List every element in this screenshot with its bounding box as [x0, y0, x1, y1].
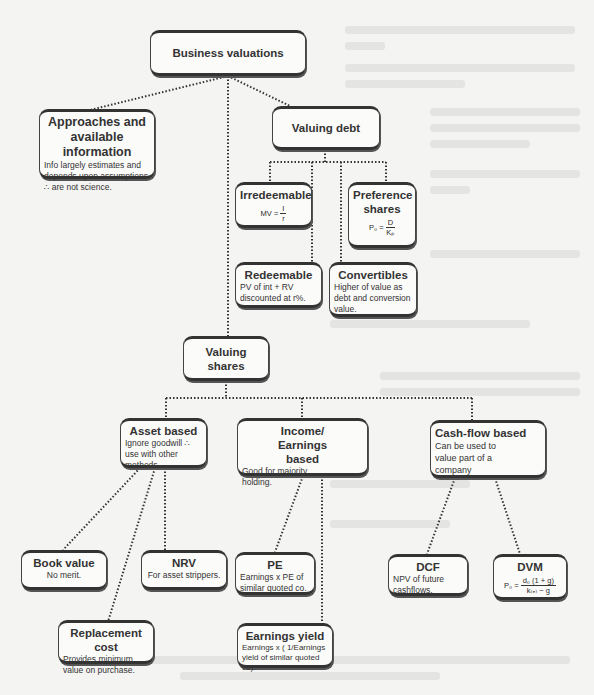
node-cashflow-based: Cash-flow based Can be used to value par… — [430, 420, 546, 478]
node-dcf: DCF NPV of future cashflows. — [388, 554, 468, 596]
node-title: Cash-flow based — [435, 426, 541, 440]
node-asset-based: Asset based Ignore goodwill ∴ use with o… — [120, 418, 207, 468]
node-nrv: NRV For asset strippers. — [141, 550, 227, 590]
node-title: PE — [240, 558, 310, 572]
node-description: No merit. — [26, 570, 102, 581]
node-income-based: Income/ Earnings based Good for majority… — [237, 418, 368, 476]
node-valuing-debt: Valuing debt — [272, 106, 380, 150]
node-convertibles: Convertibles Higher of value as debt and… — [329, 262, 417, 317]
node-description: Ignore goodwill ∴ use with other methods… — [125, 438, 202, 471]
node-preference-shares: Preference shares P₀ = D Kₚ — [348, 182, 416, 248]
node-title: Asset based — [125, 424, 202, 438]
node-description: Earnings x ( 1/Earnings yield of similar… — [242, 643, 328, 673]
node-title: NRV — [146, 556, 222, 570]
formula-p0: P₀ = D Kₚ — [353, 218, 411, 237]
node-replacement-cost: Replacement cost Provides minimum value … — [58, 620, 154, 664]
fraction: D Kₚ — [386, 218, 395, 237]
node-title: Earnings yield — [242, 629, 328, 643]
node-book-value: Book value No merit. — [21, 550, 107, 590]
node-description: PV of int + RV discounted at r%. — [240, 282, 317, 304]
node-description: For asset strippers. — [146, 570, 222, 581]
node-dvm: DVM P₀ = d₀ (1 + g) k₍ₑ₎ − g — [493, 554, 567, 600]
node-business-valuations: Business valuations — [150, 30, 306, 76]
formula-dvm: P₀ = d₀ (1 + g) k₍ₑ₎ − g — [498, 576, 562, 595]
node-description: Can be used to value part of a company — [435, 440, 541, 476]
node-description: Info largely estimates and depends upon … — [44, 160, 150, 193]
node-title: Book value — [26, 556, 102, 570]
node-description: Higher of value as debt and conversion v… — [334, 282, 412, 315]
node-title: Valuing debt — [292, 121, 360, 135]
node-title: DVM — [498, 560, 562, 574]
node-title: Convertibles — [334, 268, 412, 282]
node-title: DCF — [393, 560, 463, 574]
node-title: Irredeemable — [240, 188, 307, 202]
node-description: Provides minimum value on purchase. — [63, 654, 149, 676]
node-valuing-shares: Valuing shares — [183, 336, 269, 381]
node-earnings-yield: Earnings yield Earnings x ( 1/Earnings y… — [237, 623, 333, 668]
node-approaches: Approaches and available information Inf… — [39, 109, 155, 179]
node-redeemable: Redeemable PV of int + RV discounted at … — [235, 262, 322, 308]
node-title: Preference shares — [353, 188, 411, 216]
node-irredeemable: Irredeemable MV = I r — [235, 182, 312, 228]
node-title: Valuing shares — [188, 345, 264, 373]
formula-mv: MV = I r — [240, 204, 307, 223]
node-title: Income/ Earnings based — [242, 424, 363, 466]
node-title: Business valuations — [172, 46, 283, 60]
node-description: NPV of future cashflows. — [393, 574, 463, 596]
node-description: Good for majority holding. — [242, 466, 363, 488]
node-title: Replacement cost — [63, 626, 149, 654]
fraction: d₀ (1 + g) k₍ₑ₎ − g — [521, 576, 556, 595]
node-pe: PE Earnings x PE of similar quoted co. — [235, 552, 315, 595]
node-description: Earnings x PE of similar quoted co. — [240, 572, 310, 594]
node-title: Redeemable — [240, 268, 317, 282]
node-title: Approaches and available information — [44, 115, 150, 160]
fraction: I r — [280, 204, 286, 223]
